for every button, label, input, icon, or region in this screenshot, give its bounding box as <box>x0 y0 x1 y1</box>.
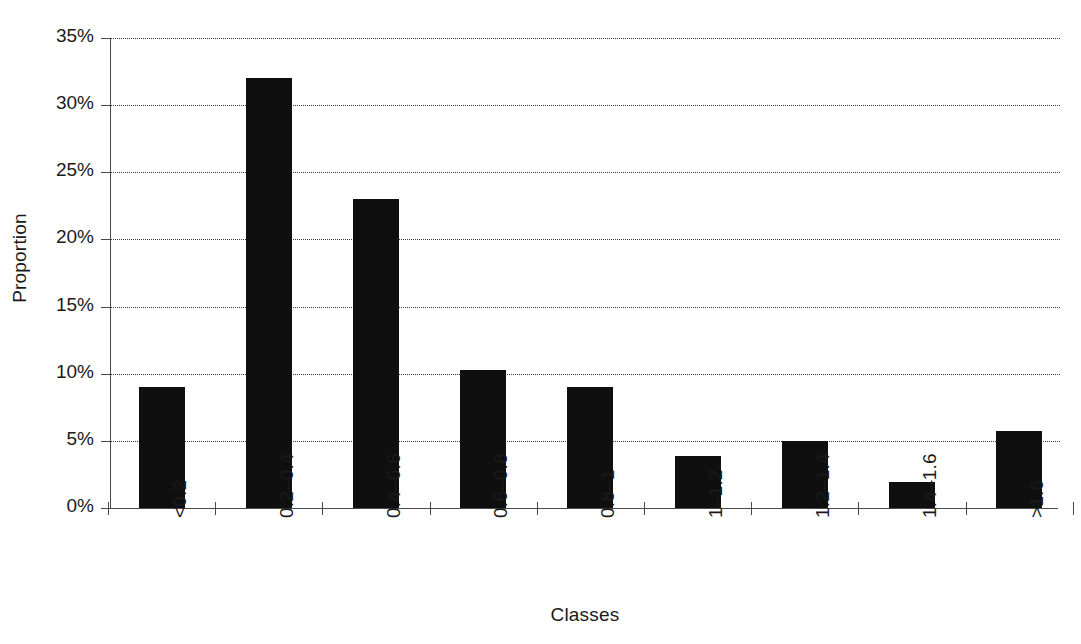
y-tick-label: 0% <box>28 495 94 517</box>
y-tick-label: 10% <box>28 361 94 383</box>
x-tick-mark <box>644 502 645 515</box>
x-tick-mark <box>537 502 538 515</box>
x-tick-label-text: 0.6–0.8 <box>490 453 512 518</box>
x-tick-label-text: 0.4–0.6 <box>383 453 405 518</box>
y-tick-mark <box>101 441 110 442</box>
x-tick-mark <box>322 502 323 515</box>
x-tick-mark <box>966 502 967 515</box>
y-tick-label: 35% <box>28 25 94 47</box>
x-tick-mark <box>215 502 216 515</box>
x-tick-label-text: 0.2–0.4 <box>276 453 298 518</box>
x-tick-mark <box>858 502 859 515</box>
y-tick-mark <box>101 172 110 173</box>
y-tick-label: 20% <box>28 226 94 248</box>
y-tick-label: 15% <box>28 294 94 316</box>
x-tick-label-text: 1.4–1.6 <box>919 453 941 518</box>
y-tick-label: 30% <box>28 92 94 114</box>
x-tick-mark <box>430 502 431 515</box>
y-tick-mark <box>101 38 110 39</box>
x-axis-line <box>110 508 1058 509</box>
x-tick-label-text: <0.2 <box>169 480 191 518</box>
x-tick-mark <box>751 502 752 515</box>
x-tick-mark <box>108 502 109 515</box>
x-tick-mark <box>1073 502 1074 515</box>
x-tick-label-text: 1–1.2 <box>705 469 727 518</box>
y-tick-mark <box>101 239 110 240</box>
x-tick-label-text: 1.2–1.4 <box>812 453 834 518</box>
y-tick-label: 5% <box>28 428 94 450</box>
y-tick-mark <box>101 105 110 106</box>
gridline <box>110 38 1060 39</box>
x-axis-title: Classes <box>110 604 1060 626</box>
y-tick-mark <box>101 374 110 375</box>
x-tick-label-text: >1.6 <box>1026 480 1048 518</box>
x-tick-label-text: 0.8–1 <box>597 469 619 518</box>
bar-chart: Proportion 0%5%10%15%20%25%30%35% <0.20.… <box>0 0 1081 644</box>
bar <box>246 78 292 508</box>
y-tick-mark <box>101 307 110 308</box>
y-axis-line <box>110 38 111 509</box>
y-tick-label: 25% <box>28 159 94 181</box>
